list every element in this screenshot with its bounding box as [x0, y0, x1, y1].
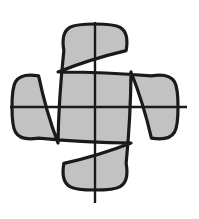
figure-canvas — [0, 0, 199, 219]
quatrefoil-figure — [0, 0, 199, 219]
